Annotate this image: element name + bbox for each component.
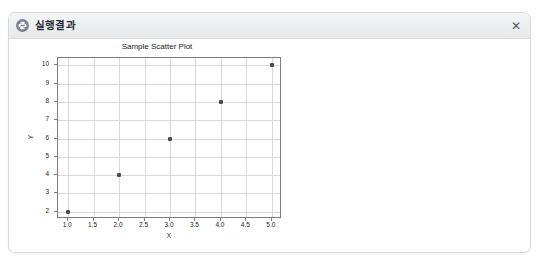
y-tick-mark [54, 83, 57, 84]
data-point [117, 173, 121, 177]
panel-header: 실행결과 ✕ [9, 13, 530, 39]
y-tick-label: 5 [45, 153, 49, 160]
data-point [270, 63, 274, 67]
x-tick-label: 5.0 [266, 222, 275, 229]
gridline-horizontal [58, 193, 280, 194]
x-axis-label: X [57, 233, 281, 240]
x-tick-label: 4.5 [241, 222, 250, 229]
panel-title: 실행결과 [35, 20, 76, 31]
gridline-horizontal [58, 157, 280, 158]
x-tick-label: 4.0 [215, 222, 224, 229]
python-logo-icon [16, 19, 29, 32]
y-tick-mark [54, 64, 57, 65]
y-tick-label: 7 [45, 116, 49, 123]
y-tick-mark [54, 101, 57, 102]
gridline-horizontal [58, 65, 280, 66]
chart-title: Sample Scatter Plot [17, 43, 297, 51]
y-tick-mark [54, 156, 57, 157]
y-tick-label: 10 [42, 61, 49, 68]
x-tick-label: 2.0 [114, 222, 123, 229]
result-panel: 실행결과 ✕ Sample Scatter Plot 1.01.52.02.53… [8, 12, 531, 253]
y-tick-mark [54, 192, 57, 193]
y-tick-mark [54, 138, 57, 139]
x-tick-label: 3.5 [190, 222, 199, 229]
y-tick-label: 3 [45, 189, 49, 196]
gridline-horizontal [58, 102, 280, 103]
x-tick-label: 2.5 [139, 222, 148, 229]
gridline-horizontal [58, 120, 280, 121]
x-tick-label: 1.0 [63, 222, 72, 229]
plot-area [57, 57, 281, 218]
x-tick-label: 3.0 [164, 222, 173, 229]
y-tick-label: 9 [45, 79, 49, 86]
y-tick-label: 2 [45, 207, 49, 214]
data-point [168, 137, 172, 141]
close-button[interactable]: ✕ [508, 18, 524, 34]
gridline-horizontal [58, 84, 280, 85]
data-point [66, 210, 70, 214]
y-tick-label: 8 [45, 98, 49, 105]
y-tick-label: 6 [45, 134, 49, 141]
y-tick-label: 4 [45, 171, 49, 178]
y-axis-label: Y [28, 135, 35, 139]
x-tick-label: 1.5 [88, 222, 97, 229]
panel-body: Sample Scatter Plot 1.01.52.02.53.03.54.… [9, 39, 530, 252]
y-tick-mark [54, 211, 57, 212]
gridline-horizontal [58, 175, 280, 176]
gridline-horizontal [58, 212, 280, 213]
scatter-chart: Sample Scatter Plot 1.01.52.02.53.03.54.… [17, 41, 297, 246]
screen: 실행결과 ✕ Sample Scatter Plot 1.01.52.02.53… [0, 0, 539, 267]
y-tick-mark [54, 119, 57, 120]
y-tick-mark [54, 174, 57, 175]
data-point [219, 100, 223, 104]
